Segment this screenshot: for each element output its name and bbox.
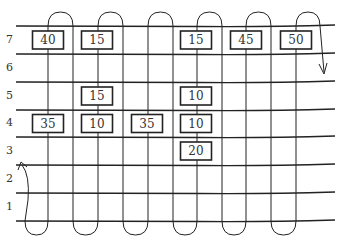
value-box: 15: [82, 31, 113, 49]
row-label-7: 7: [6, 33, 13, 46]
row-label-6: 6: [6, 61, 13, 74]
value-box-label: 10: [89, 117, 104, 131]
grid-line: [16, 164, 335, 166]
grid-line: [16, 53, 335, 55]
value-box-label: 20: [188, 144, 203, 158]
value-box-label: 15: [89, 89, 104, 103]
grid-line: [16, 81, 335, 83]
grid-line: [16, 220, 335, 222]
serpentine-diagram: 7654321 401515455015103510351020: [0, 0, 340, 245]
row-label-4: 4: [6, 116, 13, 129]
value-box: 40: [33, 31, 64, 49]
grid-line: [16, 192, 335, 194]
row-label-5: 5: [6, 89, 13, 102]
value-box: 15: [181, 31, 212, 49]
value-box-label: 15: [188, 33, 203, 47]
value-box-label: 35: [40, 117, 55, 131]
row-label-2: 2: [6, 172, 13, 185]
value-box-label: 35: [139, 117, 154, 131]
value-box-label: 15: [89, 33, 104, 47]
value-box: 35: [33, 115, 64, 133]
value-box: 15: [82, 87, 113, 105]
value-box: 10: [181, 87, 212, 105]
diagram-canvas: 7654321 401515455015103510351020: [0, 0, 340, 245]
value-box: 10: [181, 115, 212, 133]
value-box: 35: [132, 115, 163, 133]
value-box-label: 40: [40, 33, 55, 47]
value-box-label: 45: [238, 33, 253, 47]
row-labels: 7654321: [6, 33, 13, 213]
value-box: 50: [281, 31, 312, 49]
value-box: 20: [181, 142, 212, 160]
row-label-3: 3: [6, 144, 13, 157]
row-label-1: 1: [6, 200, 13, 213]
value-box-label: 50: [288, 33, 303, 47]
grid-line: [16, 109, 335, 111]
serpentine-line: [22, 12, 324, 235]
value-boxes: 401515455015103510351020: [33, 31, 312, 160]
value-box: 10: [82, 115, 113, 133]
value-box-label: 10: [188, 89, 203, 103]
value-box-label: 10: [188, 117, 203, 131]
value-box: 45: [231, 31, 262, 49]
grid-line: [16, 136, 335, 138]
grid-line: [16, 25, 335, 27]
